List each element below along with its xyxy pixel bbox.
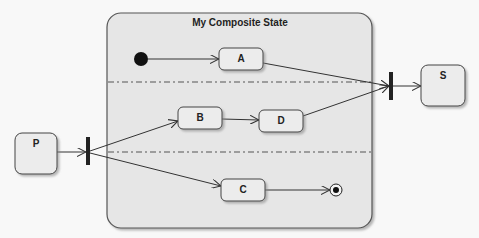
diagram-canvas: My Composite State A: [0, 0, 479, 238]
state-a[interactable]: A: [219, 48, 263, 70]
state-p[interactable]: P: [15, 133, 57, 174]
final-state[interactable]: [330, 184, 342, 196]
state-c-label: C: [239, 184, 246, 195]
state-b[interactable]: B: [178, 107, 222, 129]
state-s-label: S: [440, 70, 447, 81]
state-d-label: D: [277, 115, 284, 126]
state-diagram: My Composite State A: [0, 0, 479, 238]
state-s[interactable]: S: [421, 65, 465, 106]
composite-state-title: My Composite State: [192, 17, 288, 28]
state-p-label: P: [33, 138, 40, 149]
initial-state[interactable]: [134, 52, 148, 66]
state-a-label: A: [237, 53, 244, 64]
state-c[interactable]: C: [221, 179, 265, 201]
fork-bar[interactable]: [86, 137, 90, 165]
join-bar[interactable]: [389, 72, 393, 100]
state-d[interactable]: D: [259, 110, 303, 132]
state-b-label: B: [196, 112, 203, 123]
